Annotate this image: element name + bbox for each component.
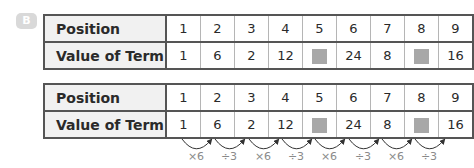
position-cell: 2	[201, 84, 235, 111]
position-row: Position 1 2 3 4 5 6 7 8 9	[44, 15, 473, 42]
position-cell: 6	[337, 15, 371, 42]
position-label: Position	[44, 15, 166, 42]
value-cell: 16	[439, 111, 474, 138]
position-cell: 8	[405, 84, 439, 111]
value-cell-blank	[405, 111, 439, 138]
missing-value-placeholder	[312, 49, 327, 64]
position-cell: 4	[269, 84, 303, 111]
arc-arrow-icon	[349, 139, 378, 149]
position-label: Position	[44, 84, 166, 111]
value-cell: 1	[166, 42, 201, 69]
value-row: Value of Term 1 6 2 12 24 8 16	[44, 42, 473, 69]
arc-arrow-icon	[382, 139, 411, 149]
value-cell: 6	[201, 42, 235, 69]
value-cell-blank	[405, 42, 439, 69]
position-cell: 5	[303, 84, 337, 111]
value-label: Value of Term	[44, 42, 166, 69]
position-cell: 2	[201, 15, 235, 42]
operation-label: ÷3	[348, 150, 378, 163]
arc-arrow-icon	[249, 139, 278, 149]
position-cell: 6	[337, 84, 371, 111]
value-cell: 6	[201, 111, 235, 138]
operation-label: ÷3	[214, 150, 244, 163]
position-cell: 9	[439, 84, 474, 111]
value-label: Value of Term	[44, 111, 166, 138]
value-cell: 24	[337, 42, 371, 69]
arc-arrow-icon	[182, 139, 211, 149]
position-cell: 9	[439, 15, 474, 42]
value-row: Value of Term 1 6 2 12 24 8 16	[44, 111, 473, 138]
position-cell: 5	[303, 15, 337, 42]
position-cell: 3	[235, 84, 269, 111]
value-cell: 16	[439, 42, 474, 69]
operation-label: ×6	[314, 150, 344, 163]
missing-value-placeholder	[312, 118, 327, 133]
value-cell: 24	[337, 111, 371, 138]
operation-label: ÷3	[414, 150, 444, 163]
position-cell: 1	[166, 15, 201, 42]
sequence-table-1: Position 1 2 3 4 5 6 7 8 9 Value of Term…	[43, 14, 474, 70]
value-cell: 2	[235, 42, 269, 69]
position-cell: 4	[269, 15, 303, 42]
position-cell: 3	[235, 15, 269, 42]
value-cell: 8	[371, 111, 405, 138]
position-row: Position 1 2 3 4 5 6 7 8 9	[44, 84, 473, 111]
operation-label: ×6	[248, 150, 278, 163]
value-cell: 1	[166, 111, 201, 138]
value-cell: 8	[371, 42, 405, 69]
missing-value-placeholder	[414, 49, 429, 64]
sequence-table-2: Position 1 2 3 4 5 6 7 8 9 Value of Term…	[43, 83, 474, 139]
arc-arrow-icon	[215, 139, 244, 149]
position-cell: 7	[371, 15, 405, 42]
position-cell: 1	[166, 84, 201, 111]
value-cell: 12	[269, 42, 303, 69]
operation-label: ÷3	[281, 150, 311, 163]
operation-label: ×6	[181, 150, 211, 163]
value-cell: 2	[235, 111, 269, 138]
position-cell: 7	[371, 84, 405, 111]
arc-arrow-icon	[415, 139, 444, 149]
operation-label: ×6	[381, 150, 411, 163]
value-cell-blank	[303, 111, 337, 138]
part-b-badge: B	[16, 13, 37, 29]
value-cell-blank	[303, 42, 337, 69]
missing-value-placeholder	[414, 118, 429, 133]
position-cell: 8	[405, 15, 439, 42]
arc-arrow-icon	[282, 139, 311, 149]
value-cell: 12	[269, 111, 303, 138]
arc-arrow-icon	[315, 139, 344, 149]
